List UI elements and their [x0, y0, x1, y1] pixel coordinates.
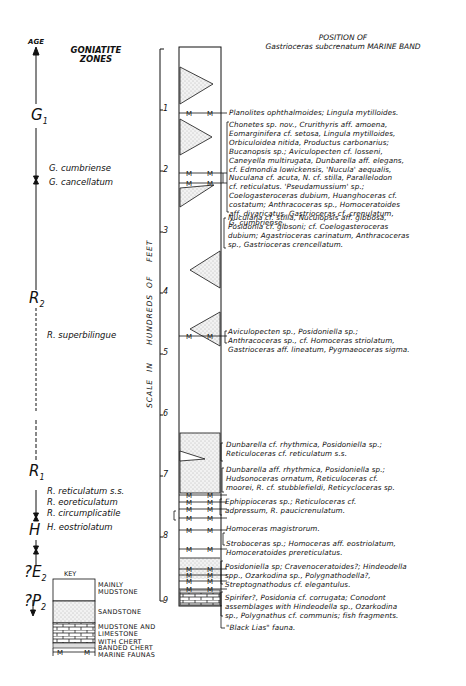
zone-label: G. cancellatum [49, 177, 113, 187]
fauna-entry: Aviculopecten sp., Posidoniella sp.; Ant… [228, 328, 410, 355]
goniatite-zones-title: GONIATITE ZONES [66, 46, 126, 64]
fauna-entry: "Black Lias" fauna. [226, 624, 295, 633]
svg-text:M: M [57, 649, 63, 657]
key-item-mudstone-limestone: MUDSTONE AND LIMESTONE WITH CHERT [98, 624, 156, 646]
fauna-entry: Chonetes sp. nov., Crurithyris aff. amoe… [229, 121, 404, 228]
scale-word: FEET [145, 240, 154, 262]
key-item-sandstone: SANDSTONE [98, 609, 141, 616]
scale-word: IN [145, 362, 154, 372]
position-note: POSITION OF Gastrioceras subcrenatum MAR… [228, 33, 458, 51]
stage-sub: 1 [39, 473, 44, 482]
scale-tick: 5 [163, 348, 168, 357]
fauna-line: Streptognathodus cf. elegantulus. [225, 581, 407, 590]
zone-label: G. cumbriense [49, 163, 111, 173]
fauna-line: sp., Polygnathus cf. communis; fish frag… [225, 612, 398, 621]
svg-text:M: M [186, 546, 192, 554]
stage-symbol: R [29, 289, 39, 307]
svg-text:M: M [84, 649, 90, 657]
fauna-entry: Homoceras magistrorum. [226, 525, 320, 534]
svg-text:M: M [186, 527, 192, 535]
svg-text:M: M [207, 578, 213, 586]
zone-label: H. eostriolatum [47, 522, 113, 532]
key-box: M M [53, 579, 95, 657]
fauna-entry: Ephippioceras sp.; Reticuloceras cf. adp… [225, 498, 356, 516]
age-axis-label: AGE [28, 38, 44, 46]
stage-symbol: ?P [24, 592, 41, 610]
fauna-entry: Posidoniella sp; Cravenoceratoides?; Hin… [225, 563, 407, 590]
stage-sub: 2 [41, 574, 46, 583]
scale-word: SCALE [145, 379, 154, 408]
svg-text:M: M [207, 180, 213, 188]
fauna-line: Gastrioceras aff. lineatum, Pygmaeoceras… [228, 346, 410, 355]
fauna-entry: Spirifer?, Posidonia cf. corrugata; Cono… [225, 594, 398, 621]
svg-text:M: M [207, 515, 213, 523]
stage-h: H [29, 521, 40, 541]
svg-text:M: M [207, 506, 213, 514]
fauna-line: Reticuloceras cf. reticulatum s.s. [226, 450, 382, 459]
key-item-marine-faunas: MARINE FAUNAS [98, 652, 155, 659]
key-label-line: SANDSTONE [98, 609, 141, 616]
fauna-line: moorei, R. cf. stubblefieldi, Reticycloc… [226, 484, 395, 493]
fauna-line: Homoceras magistrorum. [226, 525, 320, 534]
stage-r2: R2 [29, 289, 45, 309]
scale-tick: 3 [163, 226, 168, 235]
key-label-line: MUDSTONE [98, 589, 138, 596]
svg-text:M: M [186, 180, 192, 188]
stage-symbol: ?E [24, 563, 41, 581]
fauna-line: adpressum, R. paucicrenulatum. [225, 507, 356, 516]
stage-symbol: R [29, 462, 39, 480]
scale-tick: 7 [163, 470, 168, 479]
stage-symbol: G [31, 106, 43, 124]
scale-tick: 1 [163, 104, 168, 113]
stage-e2: ?E2 [24, 563, 47, 583]
svg-text:M: M [207, 586, 213, 594]
scale-tick: 4 [163, 287, 168, 296]
stage-p2: ?P2 [24, 592, 46, 612]
stage-sub: 2 [39, 300, 44, 309]
zone-label: R. superbilingue [47, 330, 116, 340]
title-line: ZONES [66, 55, 126, 64]
svg-text:M: M [207, 170, 213, 178]
svg-text:M: M [186, 110, 192, 118]
fauna-entry: Stroboceras sp.; Homoceras aff. eostriol… [226, 540, 396, 558]
fauna-line: "Black Lias" fauna. [226, 624, 295, 633]
fauna-line: Homoceratoides prereticulatus. [226, 549, 396, 558]
scale-word: OF [145, 276, 154, 288]
scale-tick: 9 [163, 596, 168, 605]
fauna-entry: Dunbarella cf. rhythmica, Posidoniella s… [226, 441, 382, 459]
scale-word: HUNDREDS [145, 294, 154, 345]
svg-text:M: M [186, 170, 192, 178]
zone-label: R. circumplicatile [47, 508, 120, 518]
scale-tick: 8 [163, 531, 168, 540]
stage-g1: G1 [31, 106, 48, 126]
zone-label: R. reticulatum s.s. [47, 486, 124, 496]
position-note-line: POSITION OF [228, 33, 458, 42]
key-title: KEY [64, 570, 76, 578]
zone-label: R. eoreticulatum [47, 497, 118, 507]
fauna-entry: Nuculana cf. stilla, Nuculopsis aff. gib… [228, 214, 409, 250]
stage-sub: 2 [41, 603, 46, 612]
stage-r1: R1 [29, 462, 45, 482]
scale-bar [160, 49, 164, 601]
svg-text:M: M [186, 578, 192, 586]
key-label-line: MARINE FAUNAS [98, 652, 155, 659]
fauna-entry: Dunbarella aff. rhythmica, Posidoniella … [226, 466, 395, 493]
fauna-line: sp., Gastrioceras crencellatum. [228, 241, 409, 250]
scale-tick: 2 [163, 165, 168, 174]
svg-text:M: M [207, 546, 213, 554]
fauna-entry: Planolites ophthalmoides; Lingula mytill… [229, 109, 399, 118]
scale-tick: 6 [163, 409, 168, 418]
svg-text:M: M [186, 586, 192, 594]
svg-text:M: M [207, 110, 213, 118]
stage-symbol: H [29, 521, 40, 539]
svg-text:M: M [207, 333, 213, 341]
key-item-mudstone: MAINLY MUDSTONE [98, 582, 138, 597]
svg-text:M: M [186, 333, 192, 341]
svg-text:M: M [207, 527, 213, 535]
position-note-line: Gastrioceras subcrenatum MARINE BAND [228, 42, 458, 51]
fauna-line: Planolites ophthalmoides; Lingula mytill… [229, 109, 399, 118]
stage-sub: 1 [43, 117, 48, 126]
svg-text:M: M [186, 506, 192, 514]
svg-text:M: M [186, 515, 192, 523]
